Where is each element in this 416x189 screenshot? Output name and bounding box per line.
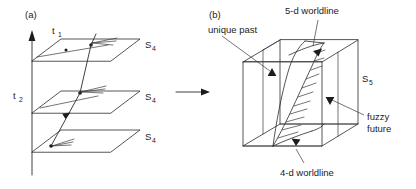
leader-fuzzy-future xyxy=(332,100,364,115)
annotation-unique-past: unique past xyxy=(208,24,257,35)
cube-connecting-edges xyxy=(243,40,358,146)
surface-label-s4-middle: S 4 xyxy=(145,91,156,104)
transition-arrow xyxy=(176,88,210,95)
time-label-t2-sub: 2 xyxy=(19,96,23,103)
panel-a-label: (a) xyxy=(25,9,37,20)
surface-label-s4-middle-base: S xyxy=(145,91,151,102)
surface-label-s4-middle-sub: 4 xyxy=(152,97,156,104)
worldline-sheet-4d xyxy=(273,41,325,146)
annotation-5d-worldline: 5-d worldline xyxy=(285,5,339,16)
time-label-t2: t 2 xyxy=(13,90,23,103)
time-axis xyxy=(29,30,36,175)
arrowhead-unique-past xyxy=(268,68,277,76)
hypersurface-plane-middle xyxy=(32,86,140,113)
arrowhead-fuzzy-future xyxy=(326,97,335,105)
annotation-fuzzy-future-line1: fuzzy xyxy=(367,111,389,122)
surface-label-s5-base: S xyxy=(362,73,368,84)
time-label-t1-base: t xyxy=(52,25,55,36)
surface-label-s5: S 5 xyxy=(362,73,373,86)
annotation-fuzzy-future-line2: future xyxy=(367,123,391,134)
surface-label-s4-top-base: S xyxy=(145,39,151,50)
surface-label-s4-bottom-base: S xyxy=(145,131,151,142)
arrowhead-5d-worldline xyxy=(313,49,322,57)
cube-internal-guides xyxy=(243,40,358,146)
surface-label-s4-top-sub: 4 xyxy=(152,45,156,52)
surface-label-s4-top: S 4 xyxy=(145,39,156,52)
time-label-t1-sub: 1 xyxy=(58,31,62,38)
surface-label-s4-bottom: S 4 xyxy=(145,131,156,144)
panel-a-group: (a) t 1 t 2 S 4 S 4 S 4 xyxy=(0,0,156,175)
figure-root: (a) t 1 t 2 S 4 S 4 S 4 xyxy=(0,0,416,189)
figure-canvas: (a) t 1 t 2 S 4 S 4 S 4 xyxy=(0,0,416,189)
surface-label-s4-bottom-sub: 4 xyxy=(152,137,156,144)
annotation-4d-worldline: 4-d worldline xyxy=(280,167,334,178)
arrowhead-4d-worldline xyxy=(292,139,301,147)
hypersurface-plane-bottom xyxy=(32,130,140,152)
hypersurface-plane-top xyxy=(0,0,140,61)
leader-4d-worldline xyxy=(296,149,304,163)
panel-b-label: (b) xyxy=(209,9,221,20)
time-label-t2-base: t xyxy=(13,90,16,101)
surface-label-s5-sub: 5 xyxy=(369,79,373,86)
cube-front-face xyxy=(243,62,322,146)
panel-b-group: (b) 5-d worldline unique past fuzzy futu… xyxy=(208,5,391,178)
time-label-t1: t 1 xyxy=(52,25,62,38)
